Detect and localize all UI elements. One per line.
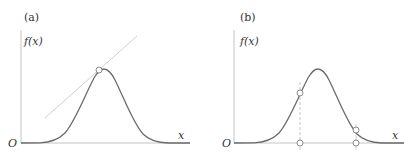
origin-label: O [8, 137, 17, 150]
panel-a: (a) f(x) O x [8, 11, 190, 150]
bell-curve [21, 69, 190, 143]
y-axis-label: f(x) [23, 35, 43, 48]
panel-label: (a) [24, 11, 39, 24]
panel-label: (b) [240, 11, 256, 24]
y-axis-label: f(x) [239, 35, 259, 48]
figure: (a) f(x) O x (b) f(x) O x [0, 0, 408, 168]
panel-b: (b) f(x) O x [222, 11, 404, 150]
right-axis-point-marker [353, 140, 359, 146]
left-curve-point-marker [297, 90, 303, 96]
origin-label: O [222, 137, 231, 150]
right-curve-point-marker [353, 127, 359, 133]
x-axis-label: x [392, 129, 399, 142]
tangent-line [45, 36, 137, 118]
x-axis-label: x [178, 129, 185, 142]
left-axis-point-marker [297, 140, 303, 146]
bell-curve [234, 69, 404, 143]
tangent-point-marker [96, 67, 102, 73]
